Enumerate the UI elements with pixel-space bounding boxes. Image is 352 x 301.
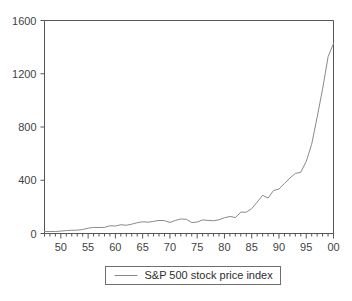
- chart-background: [0, 0, 352, 301]
- x-axis-tick-label: 65: [137, 241, 149, 253]
- x-axis-tick-label: 90: [273, 241, 285, 253]
- x-axis-tick-label: 55: [82, 241, 94, 253]
- x-axis-tick-label: 60: [109, 241, 121, 253]
- legend-label: S&P 500 stock price index: [145, 269, 274, 281]
- x-axis-tick-label: 50: [55, 241, 67, 253]
- x-axis-tick-label: 00: [327, 241, 339, 253]
- x-axis-tick-label: 80: [218, 241, 230, 253]
- x-axis-tick-label: 95: [300, 241, 312, 253]
- y-axis-tick-label: 800: [18, 121, 36, 133]
- y-axis-tick-label: 400: [18, 174, 36, 186]
- line-chart: 040080012001600 5055606570758085909500 S…: [0, 0, 352, 301]
- y-axis-tick-label: 1600: [12, 15, 36, 27]
- x-axis-tick-label: 70: [164, 241, 176, 253]
- x-axis-tick-label: 75: [191, 241, 203, 253]
- y-axis-tick-label: 1200: [12, 68, 36, 80]
- x-axis-tick-label: 85: [246, 241, 258, 253]
- chart-figure: 040080012001600 5055606570758085909500 S…: [0, 0, 352, 301]
- y-axis-tick-label: 0: [30, 228, 36, 240]
- chart-legend: S&P 500 stock price index: [106, 267, 281, 285]
